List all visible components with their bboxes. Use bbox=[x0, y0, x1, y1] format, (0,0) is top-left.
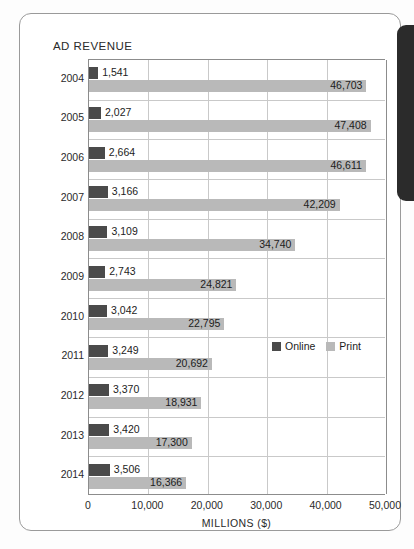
bar-value-label-print: 16,366 bbox=[150, 476, 182, 488]
chart-legend: OnlinePrint bbox=[272, 340, 361, 352]
y-axis-tick-label: 2008 bbox=[24, 230, 84, 242]
bar-online bbox=[89, 67, 98, 79]
legend-item: Online bbox=[272, 340, 315, 352]
grid-line-horizontal bbox=[89, 100, 385, 101]
x-axis-tick-label: 10,000 bbox=[131, 499, 163, 511]
y-axis-tick-label: 2007 bbox=[24, 191, 84, 203]
bar-value-label-online: 3,506 bbox=[114, 463, 140, 475]
y-axis-tick-label: 2012 bbox=[24, 389, 84, 401]
bar-value-label-online: 3,370 bbox=[113, 383, 139, 395]
y-axis-tick-label: 2006 bbox=[24, 151, 84, 163]
y-axis-tick-label: 2010 bbox=[24, 310, 84, 322]
y-axis-tick-label: 2013 bbox=[24, 429, 84, 441]
legend-label: Online bbox=[285, 340, 315, 352]
bar-value-label-online: 3,042 bbox=[111, 304, 137, 316]
bar-value-label-print: 20,692 bbox=[176, 357, 208, 369]
bar-print bbox=[89, 160, 366, 172]
grid-line-horizontal bbox=[89, 219, 385, 220]
bar-value-label-online: 2,664 bbox=[109, 146, 135, 158]
chart-card: AD REVENUE 1,54146,7032,02747,4082,66446… bbox=[19, 13, 401, 531]
page-title: AD REVENUE bbox=[53, 40, 132, 52]
bar-print bbox=[89, 120, 371, 132]
legend-label: Print bbox=[339, 340, 361, 352]
grid-line-horizontal bbox=[89, 337, 385, 338]
bar-online bbox=[89, 266, 105, 278]
bar-online bbox=[89, 464, 110, 476]
legend-swatch-icon bbox=[326, 342, 335, 351]
y-axis-tick-label: 2011 bbox=[24, 349, 84, 361]
bar-value-label-online: 3,166 bbox=[112, 185, 138, 197]
bar-value-label-online: 2,743 bbox=[109, 265, 135, 277]
x-axis-label: MILLIONS ($) bbox=[88, 517, 385, 529]
grid-line-horizontal bbox=[89, 298, 385, 299]
bar-value-label-print: 17,300 bbox=[156, 436, 188, 448]
grid-line-horizontal bbox=[89, 417, 385, 418]
bar-value-label-print: 34,740 bbox=[259, 238, 291, 250]
bar-online bbox=[89, 305, 107, 317]
bar-value-label-print: 46,703 bbox=[330, 79, 362, 91]
grid-line-horizontal bbox=[89, 258, 385, 259]
x-axis-tick-label: 50,000 bbox=[369, 499, 401, 511]
bar-print bbox=[89, 199, 340, 211]
grid-line-horizontal bbox=[89, 179, 385, 180]
bar-online bbox=[89, 186, 108, 198]
x-axis-tick-label: 0 bbox=[85, 499, 91, 511]
y-axis-tick-label: 2014 bbox=[24, 468, 84, 480]
x-axis-tick-label: 30,000 bbox=[250, 499, 282, 511]
x-axis-tick-label: 40,000 bbox=[310, 499, 342, 511]
bar-online bbox=[89, 384, 109, 396]
bar-online bbox=[89, 345, 108, 357]
y-axis-tick-label: 2009 bbox=[24, 270, 84, 282]
grid-line-horizontal bbox=[89, 456, 385, 457]
y-axis-tick-label: 2004 bbox=[24, 72, 84, 84]
bar-online bbox=[89, 424, 109, 436]
bar-value-label-online: 3,109 bbox=[111, 225, 137, 237]
page-background: AD REVENUE 1,54146,7032,02747,4082,66446… bbox=[0, 0, 414, 549]
y-axis-tick-label: 2005 bbox=[24, 111, 84, 123]
bar-value-label-print: 42,209 bbox=[304, 198, 336, 210]
grid-line-vertical bbox=[386, 60, 387, 494]
bar-online bbox=[89, 226, 107, 238]
grid-line-horizontal bbox=[89, 377, 385, 378]
bar-online bbox=[89, 107, 101, 119]
page-edge-tab-icon bbox=[397, 25, 414, 201]
bar-value-label-online: 3,420 bbox=[113, 423, 139, 435]
plot-area: 1,54146,7032,02747,4082,66446,6113,16642… bbox=[88, 59, 385, 495]
bar-value-label-online: 1,541 bbox=[102, 66, 128, 78]
bar-value-label-print: 46,611 bbox=[331, 159, 362, 171]
bar-value-label-print: 18,931 bbox=[165, 396, 197, 408]
bar-online bbox=[89, 147, 105, 159]
bar-value-label-print: 24,821 bbox=[200, 278, 232, 290]
legend-swatch-icon bbox=[272, 342, 281, 351]
bar-value-label-online: 2,027 bbox=[105, 106, 131, 118]
grid-line-horizontal bbox=[89, 139, 385, 140]
bar-print bbox=[89, 80, 366, 92]
bar-value-label-print: 22,795 bbox=[188, 317, 220, 329]
x-axis-tick-label: 20,000 bbox=[191, 499, 223, 511]
bar-value-label-online: 3,249 bbox=[112, 344, 138, 356]
bar-value-label-print: 47,408 bbox=[334, 119, 366, 131]
legend-item: Print bbox=[326, 340, 361, 352]
